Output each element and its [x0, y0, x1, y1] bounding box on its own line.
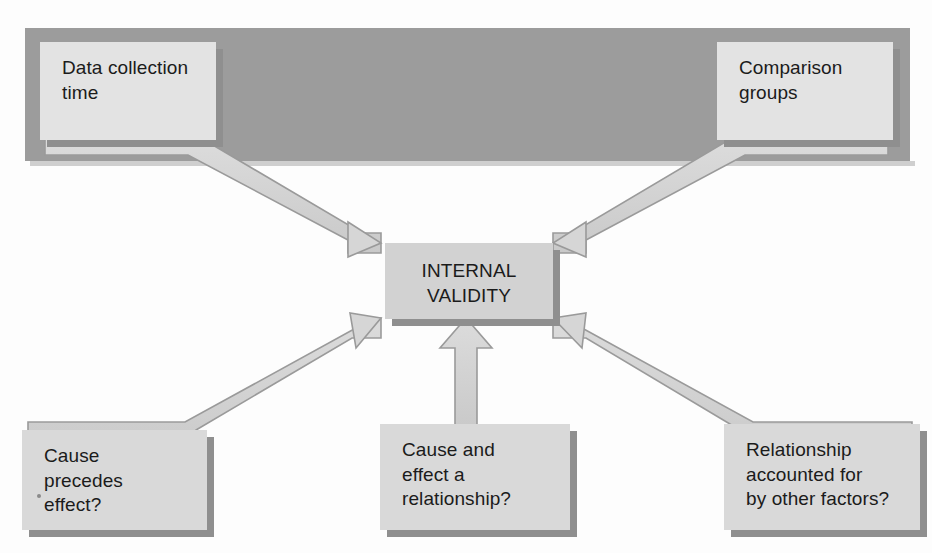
- diagram-canvas: Data collection time Comparison groups I…: [0, 0, 932, 553]
- scan-artifact-text: [660, 0, 920, 7]
- node-label-line1: Comparison: [739, 56, 877, 81]
- box-shadow-right: [216, 49, 223, 147]
- node-label-line1: Cause: [44, 444, 191, 469]
- node-label-line2: time: [62, 81, 200, 106]
- box-shadow-bottom: [387, 530, 577, 537]
- box-shadow-right: [553, 250, 560, 326]
- box-shadow-right: [920, 431, 927, 537]
- box-shadow-bottom: [731, 530, 927, 537]
- box-shadow-bottom: [392, 319, 560, 326]
- node-cause-precedes-effect: Cause precedes effect?: [22, 430, 207, 530]
- box-shadow-bottom: [29, 530, 214, 537]
- box-shadow-right: [207, 437, 214, 537]
- node-label-line3: effect?: [44, 493, 191, 518]
- center-title-line1: INTERNAL: [391, 258, 547, 283]
- box-shadow-bottom: [724, 140, 900, 147]
- node-label-line2: precedes: [44, 469, 191, 494]
- node-label-line2: effect a: [402, 463, 554, 488]
- node-internal-validity: INTERNAL VALIDITY: [385, 243, 553, 319]
- node-label-line2: accounted for: [746, 463, 904, 488]
- box-shadow-right: [893, 49, 900, 147]
- top-band-shadow: [30, 161, 915, 166]
- scan-speck: [37, 494, 41, 498]
- box-shadow-bottom: [47, 140, 223, 147]
- node-cause-and-effect-relationship: Cause and effect a relationship?: [380, 424, 570, 530]
- node-label-line1: Data collection: [62, 56, 200, 81]
- node-label-line2: groups: [739, 81, 877, 106]
- node-label-line3: relationship?: [402, 487, 554, 512]
- node-data-collection-time: Data collection time: [40, 42, 216, 140]
- node-comparison-groups: Comparison groups: [717, 42, 893, 140]
- arrow-cause-effect-to-center: [440, 318, 492, 430]
- node-label-line3: by other factors?: [746, 487, 904, 512]
- node-label-line1: Cause and: [402, 438, 554, 463]
- node-label-line1: Relationship: [746, 438, 904, 463]
- box-shadow-right: [570, 431, 577, 537]
- node-relationship-accounted-for: Relationship accounted for by other fact…: [724, 424, 920, 530]
- center-title-line2: VALIDITY: [391, 283, 547, 308]
